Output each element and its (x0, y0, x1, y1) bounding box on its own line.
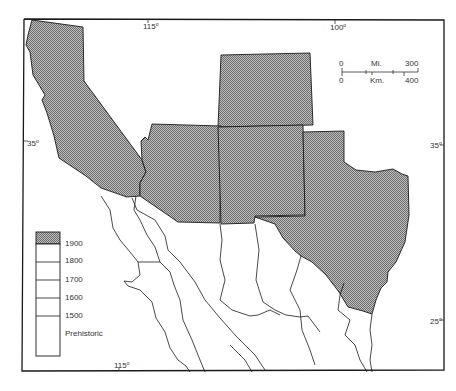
legend-label-1600: 1600 (65, 294, 83, 302)
region-california (26, 20, 146, 197)
lat-value: 35 (430, 141, 439, 150)
scale-miles-start: 0 (339, 60, 343, 68)
lat-label-right-bottom: 25o (430, 318, 442, 326)
lat-label-right-top: 35o (430, 142, 442, 150)
lon-value: 115 (114, 361, 127, 370)
region-new-mexico (218, 125, 305, 224)
legend-label-1900: 1900 (65, 240, 83, 248)
lat-value: 25 (430, 317, 439, 326)
lon-label-top-right: 100o (330, 24, 346, 32)
region-arizona (140, 124, 221, 223)
lat-value: 35 (27, 139, 36, 148)
lat-label-left: 35o (27, 140, 39, 148)
degree-symbol: o (156, 21, 159, 27)
lon-label-top-left: 115o (143, 23, 159, 31)
scale-km-unit: Km. (370, 77, 384, 85)
lon-label-bottom: 115o (114, 362, 130, 370)
legend-label-1800: 1800 (65, 257, 83, 265)
legend-label-prehistoric: Prehistoric (65, 330, 103, 338)
scale-bar (342, 68, 418, 76)
scale-miles-unit: Mi. (371, 60, 382, 68)
legend-box (36, 232, 60, 356)
degree-symbol: o (439, 316, 442, 322)
scale-km-end: 400 (405, 77, 418, 85)
degree-symbol: o (127, 360, 130, 366)
lon-value: 115 (143, 22, 156, 31)
degree-symbol: o (343, 22, 346, 28)
region-colorado (218, 53, 313, 127)
lon-value: 100 (330, 23, 343, 32)
degree-symbol: o (36, 138, 39, 144)
degree-symbol: o (439, 140, 442, 146)
scale-miles-end: 300 (405, 60, 418, 68)
legend-label-1500: 1500 (65, 312, 83, 320)
scale-km-start: 0 (339, 77, 343, 85)
legend-label-1700: 1700 (65, 276, 83, 284)
